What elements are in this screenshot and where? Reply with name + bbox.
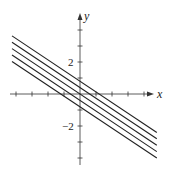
parallel-line-5 [12,61,157,158]
line-family-plot: x y 2 −2 [0,0,173,170]
parallel-line-3 [12,49,157,146]
x-axis-arrow-icon [147,92,154,97]
y-tick-label-2: 2 [68,56,74,68]
x-axis-label: x [156,87,163,101]
plot-canvas: x y 2 −2 [0,0,173,170]
parallel-line-4 [12,55,157,152]
y-tick-label-neg2: −2 [62,120,74,132]
parallel-line-1 [12,36,157,133]
lines-group [12,36,157,158]
y-axis-label: y [83,9,90,23]
parallel-line-2 [12,42,157,139]
y-axis-arrow-icon [78,13,83,20]
